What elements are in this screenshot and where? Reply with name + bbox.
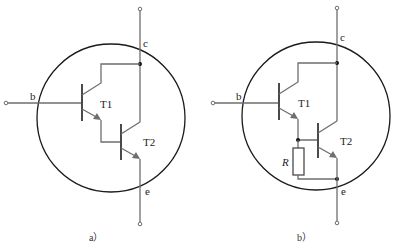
t1-collector-wire-a	[82, 64, 140, 95]
collector-terminal-a	[138, 7, 142, 11]
panel-b: b c e T1 T2 R b）	[211, 6, 390, 243]
emitter-terminal-a	[138, 222, 142, 226]
t2-label-b: T2	[340, 135, 352, 147]
t1-to-t2-wire-b	[298, 119, 318, 140]
caption-b: b）	[297, 232, 312, 243]
resistor-label-b: R	[281, 156, 289, 168]
panel-a: b c e T1 T2 a）	[4, 7, 185, 243]
t1-label-b: T1	[298, 97, 310, 109]
t2-label-a: T2	[143, 136, 155, 148]
base-terminal-b	[211, 101, 215, 105]
emitter-terminal-b	[335, 221, 339, 225]
emitter-label-a: e	[145, 185, 150, 197]
t1-collector-wire-b	[279, 63, 337, 94]
collector-label-b: c	[340, 31, 345, 43]
t1-to-t2-wire-a	[101, 120, 121, 142]
package-circle-a	[37, 44, 185, 192]
resistor-r	[293, 148, 304, 175]
t2-collector-wire-a	[121, 122, 140, 134]
collector-label-a: c	[143, 37, 148, 49]
base-terminal-a	[4, 101, 8, 105]
t1-label-a: T1	[100, 98, 112, 110]
base-label-a: b	[30, 90, 36, 102]
package-circle-b	[242, 42, 390, 190]
base-label-b: b	[236, 90, 242, 102]
darlington-diagram: b c e T1 T2 a） b	[0, 0, 394, 247]
caption-a: a）	[89, 232, 103, 243]
t2-collector-wire-b	[318, 121, 337, 133]
emitter-label-b: e	[341, 185, 346, 197]
collector-terminal-b	[335, 6, 339, 10]
